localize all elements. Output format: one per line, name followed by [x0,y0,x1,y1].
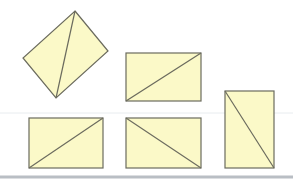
shape-4 [126,118,201,168]
shape-3 [29,118,103,168]
diagram-canvas [0,0,293,180]
shapes-group [23,11,274,168]
shape-5 [225,91,274,168]
shape-1 [23,11,108,98]
shape-2 [126,53,201,101]
rectangles-with-diagonals-figure [0,0,293,180]
